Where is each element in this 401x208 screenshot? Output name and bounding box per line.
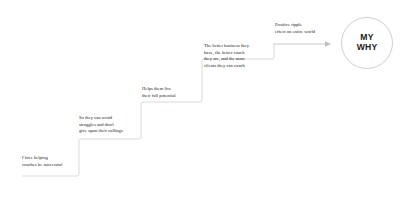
my-why-line-2: WHY — [357, 43, 378, 53]
arrow-head-icon — [325, 41, 331, 47]
staircase-path — [0, 0, 401, 208]
step-label-5: Positive ripple effect on entire world — [275, 22, 339, 35]
my-why-circle: MY WHY — [341, 17, 393, 69]
diagram-canvas: I love helping coaches be successful So … — [0, 0, 401, 208]
step-label-1: I love helping coaches be successful — [22, 155, 80, 168]
step-label-4: The better business they have, the bette… — [204, 43, 270, 69]
step-label-2: So they can avoid struggles and don't gi… — [79, 115, 139, 135]
step-label-3: Helps them live their full potential — [142, 86, 200, 99]
